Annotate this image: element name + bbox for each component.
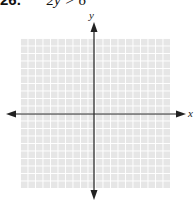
y-axis-label: y (89, 9, 94, 21)
x-axis-label: x (188, 107, 193, 119)
x-axis-left-arrow-icon (6, 111, 16, 118)
coordinate-axes (0, 0, 194, 202)
y-axis-down-arrow-icon (91, 190, 98, 200)
x-axis (6, 111, 186, 118)
x-axis-right-arrow-icon (176, 111, 186, 118)
y-axis-up-arrow-icon (91, 22, 98, 32)
y-axis (91, 22, 98, 200)
